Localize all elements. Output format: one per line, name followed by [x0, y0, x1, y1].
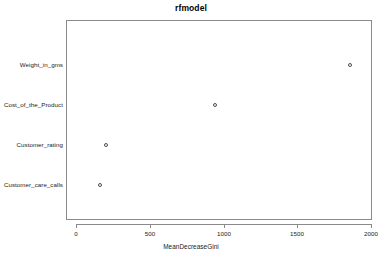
- data-point-marker: [213, 103, 217, 107]
- x-axis-tick: [224, 224, 225, 228]
- variable-importance-plot: rfmodel Weight_in_gms Cost_of_the_Produc…: [0, 0, 382, 258]
- y-axis-tick-label: Cost_of_the_Product: [4, 101, 63, 108]
- y-axis-label-group: Weight_in_gms Cost_of_the_Product Custom…: [0, 0, 63, 258]
- y-axis-tick-label: Weight_in_gms: [20, 61, 63, 68]
- data-point-marker: [98, 183, 102, 187]
- data-point-marker: [104, 143, 108, 147]
- y-axis-tick-label: Customer_care_calls: [4, 181, 63, 188]
- x-axis-tick-label: 1000: [217, 230, 231, 237]
- x-axis-tick-label: 0: [74, 230, 77, 237]
- x-axis-tick-label: 2000: [364, 230, 378, 237]
- x-axis-title: MeanDecreaseGini: [0, 243, 382, 250]
- x-axis-tick: [297, 224, 298, 228]
- x-axis-tick: [371, 224, 372, 228]
- plot-area: [66, 20, 372, 220]
- data-point-marker: [348, 63, 352, 67]
- y-axis-tick-label: Customer_rating: [17, 141, 64, 148]
- x-axis-tick-label: 1500: [290, 230, 304, 237]
- x-axis-tick-label: 500: [145, 230, 155, 237]
- x-axis-tick: [150, 224, 151, 228]
- x-axis-tick: [76, 224, 77, 228]
